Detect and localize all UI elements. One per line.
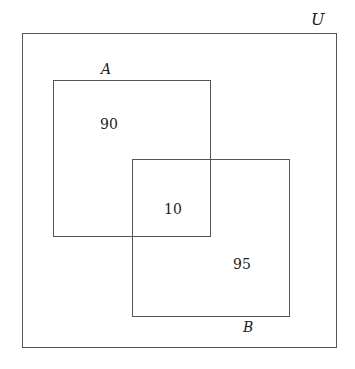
b-only-count: 95 [233,257,251,271]
set-b-label: B [243,320,253,334]
a-only-count: 90 [100,117,118,131]
universe-label: U [311,12,324,28]
intersection-count: 10 [164,202,182,216]
set-b-rect [132,159,290,317]
set-a-label: A [101,62,111,76]
